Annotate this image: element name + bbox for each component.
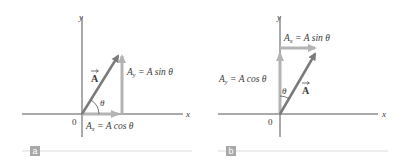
origin-label: 0 bbox=[72, 117, 77, 127]
vector-label: A bbox=[302, 82, 310, 97]
panel-a-tag: a bbox=[33, 146, 38, 156]
y-component-label: Ay = A cos θ bbox=[218, 74, 267, 85]
panel-b-tag: b bbox=[229, 146, 234, 156]
vector-a-arrow bbox=[280, 54, 315, 114]
x-component-label: Ax = A cos θ bbox=[85, 121, 134, 132]
angle-label: θ bbox=[282, 86, 287, 96]
vector-label: A bbox=[91, 70, 99, 85]
svg-text:A: A bbox=[91, 73, 99, 84]
vector-components-figure: x y 0 θ A Ay = A sin θ Ax = A cos θ a bbox=[0, 0, 406, 165]
y-component-label: Ay = A sin θ bbox=[126, 67, 173, 78]
x-axis-label: x bbox=[381, 109, 386, 119]
x-component-label: Ax = A sin θ bbox=[283, 33, 330, 44]
angle-label: θ bbox=[100, 98, 105, 108]
panel-b: x y 0 θ A Ax = A sin θ Ay = A cos θ b bbox=[218, 12, 388, 156]
svg-text:A: A bbox=[302, 85, 310, 96]
y-axis-label: y bbox=[276, 12, 281, 22]
origin-label: 0 bbox=[268, 117, 273, 127]
panel-a: x y 0 θ A Ay = A sin θ Ax = A cos θ a bbox=[22, 12, 192, 156]
y-axis-label: y bbox=[78, 12, 83, 22]
angle-arc bbox=[91, 100, 99, 114]
x-axis-label: x bbox=[185, 109, 190, 119]
